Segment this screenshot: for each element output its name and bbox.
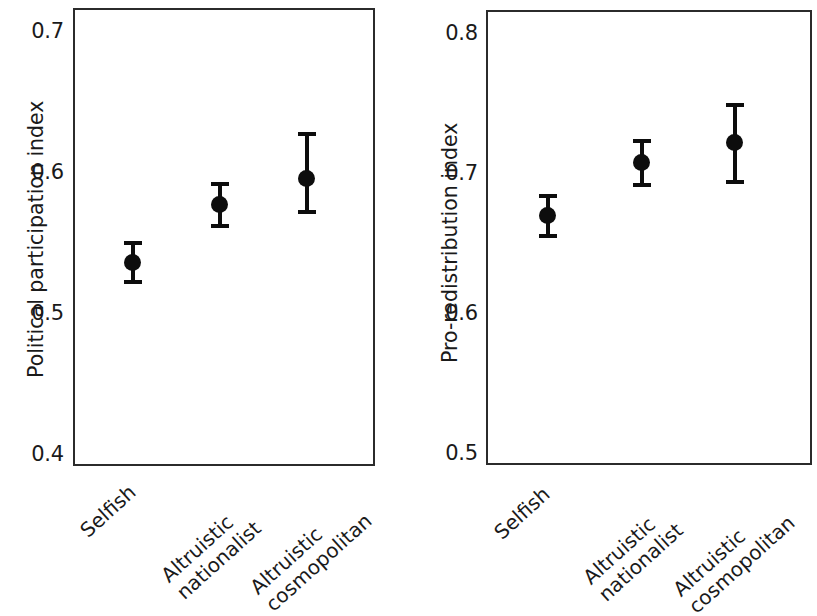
errorbar-cap-bottom-right-1 bbox=[633, 183, 651, 187]
x-tick-label-right-selfish: Selfish bbox=[490, 483, 555, 544]
y-tick-label-right-0: 0.8 bbox=[438, 23, 478, 44]
plot-area-border-right bbox=[486, 10, 812, 465]
marker-dot-left-1 bbox=[211, 196, 228, 213]
x-tick-label-right-altruistic-cosmopolitan: Altruistic cosmopolitan bbox=[669, 494, 800, 616]
x-tick-left-0-line1: Selfish bbox=[75, 480, 140, 542]
errorbar-cap-bottom-left-0 bbox=[124, 280, 142, 284]
y-axis-title-left: Political participation index bbox=[26, 101, 47, 379]
chart-panel-pro-redistribution: Pro-redistribution index 0.8 0.7 0.6 0.5 bbox=[420, 0, 817, 599]
errorbar-cap-bottom-right-0 bbox=[539, 234, 557, 238]
marker-dot-right-2 bbox=[726, 134, 743, 151]
y-tick-label-right-1: 0.7 bbox=[438, 163, 478, 184]
chart-panel-political-participation: Political participation index 0.7 0.6 0.… bbox=[0, 0, 420, 599]
errorbar-cap-bottom-right-2 bbox=[726, 180, 744, 184]
x-tick-label-left-selfish: Selfish bbox=[76, 481, 141, 542]
x-tick-label-right-altruistic-nationalist: Altruistic nationalist bbox=[579, 502, 688, 606]
y-tick-label-left-2: 0.5 bbox=[26, 303, 64, 324]
errorbar-cap-bottom-left-1 bbox=[211, 224, 229, 228]
y-tick-label-left-3: 0.4 bbox=[26, 444, 64, 465]
errorbar-cap-bottom-left-2 bbox=[298, 210, 316, 214]
x-tick-label-left-altruistic-cosmopolitan: Altruistic cosmopolitan bbox=[246, 492, 377, 616]
x-tick-label-left-altruistic-nationalist: Altruistic nationalist bbox=[157, 500, 266, 604]
y-tick-label-left-0: 0.7 bbox=[26, 21, 64, 42]
marker-dot-left-0 bbox=[124, 254, 141, 271]
y-tick-label-left-1: 0.6 bbox=[26, 162, 64, 183]
marker-dot-right-1 bbox=[633, 154, 650, 171]
y-tick-label-right-2: 0.6 bbox=[438, 303, 478, 324]
x-tick-right-0-line1: Selfish bbox=[489, 482, 554, 544]
y-axis-title-right: Pro-redistribution index bbox=[440, 123, 461, 363]
plot-area-border-left bbox=[73, 8, 375, 466]
marker-dot-right-0 bbox=[539, 207, 556, 224]
y-tick-label-right-3: 0.5 bbox=[438, 443, 478, 464]
marker-dot-left-2 bbox=[298, 170, 315, 187]
